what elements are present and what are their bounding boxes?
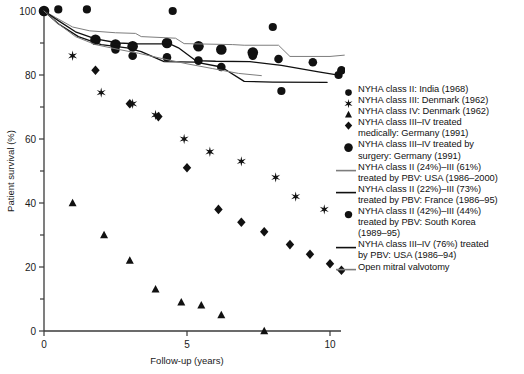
data-point-circle-small (83, 5, 91, 13)
legend-marker-line-dark-icon (334, 239, 356, 250)
legend-marker-line-gray-icon (334, 262, 356, 273)
legend-marker-diamond-icon (334, 117, 356, 128)
data-point-star (320, 204, 329, 214)
data-point-diamond (260, 227, 268, 237)
data-point-circle-large (193, 41, 204, 52)
legend-item: NYHA class III–IV treated bysurgery: Ger… (334, 139, 524, 161)
data-point-triangle (126, 256, 134, 264)
data-point-triangle (152, 285, 160, 293)
data-point-star (271, 172, 280, 182)
data-point-triangle (197, 301, 205, 309)
series-line (44, 11, 344, 56)
y-axis-title: Patient survival (%) (5, 130, 16, 212)
legend-item: NYHA class II (42%)–III (44%)treated by … (334, 206, 524, 239)
data-point-star (291, 191, 300, 201)
legend-marker-circle-large-icon (334, 139, 356, 150)
x-tick-label: 0 (41, 339, 47, 350)
data-point-circle-large (216, 44, 227, 55)
legend-label: treated by PBV: USA (1986–2000) (358, 173, 524, 184)
x-tick-label: 10 (324, 339, 336, 350)
legend-item: NYHA class II (22%)–III (73%)treated by … (334, 184, 524, 206)
legend-item: NYHA class II: India (1968) (334, 84, 524, 95)
x-axis-title: Follow-up (years) (150, 355, 223, 366)
series-line (44, 11, 327, 82)
data-point-triangle (69, 199, 77, 207)
y-tick-label: 60 (25, 134, 37, 145)
y-tick-label: 20 (25, 262, 37, 273)
data-point-circle-medium (274, 55, 283, 64)
data-point-diamond (326, 259, 334, 269)
legend-label: NYHA class III–IV treated by (358, 139, 524, 150)
data-point-star (237, 156, 246, 166)
data-point-triangle (217, 311, 225, 319)
data-point-diamond (214, 205, 222, 215)
legend-item: NYHA class III: Denmark (1962) (334, 95, 524, 106)
legend-item: NYHA class II (24%)–III (61%)treated by … (334, 162, 524, 184)
plot-area: 0204060801000510Follow-up (years)Patient… (0, 0, 345, 374)
legend-label: NYHA class II: India (1968) (358, 84, 524, 95)
y-tick-label: 40 (25, 198, 37, 209)
y-tick-label: 0 (30, 326, 36, 337)
data-point-diamond (91, 65, 99, 75)
data-point-circle-large (162, 38, 173, 49)
data-point-triangle (177, 298, 185, 306)
legend-item: Open mitral valvotomy (334, 262, 524, 273)
chart-svg: 0204060801000510Follow-up (years)Patient… (0, 0, 345, 374)
data-point-circle-small (54, 5, 62, 13)
data-point-star (205, 147, 214, 157)
legend-label: (1989–95) (358, 228, 524, 239)
legend-label: treated by PBV: France (1986–95) (358, 195, 524, 206)
legend-label: NYHA class III–IV treated (358, 117, 524, 128)
legend-marker-star-icon (334, 95, 356, 106)
legend-label: NYHA class II (42%)–III (44%) (358, 206, 524, 217)
data-point-diamond (286, 240, 294, 250)
chart-legend: NYHA class II: India (1968)NYHA class II… (334, 84, 524, 273)
data-point-circle-medium (309, 58, 318, 67)
data-point-triangle (100, 231, 108, 239)
data-point-star (180, 134, 189, 144)
data-point-diamond (306, 249, 314, 259)
legend-item: NYHA class III–IV treatedmedically: Germ… (334, 117, 524, 139)
x-tick-label: 5 (184, 339, 190, 350)
data-point-circle-small (277, 87, 285, 95)
legend-label: Open mitral valvotomy (358, 262, 524, 273)
y-tick-label: 80 (25, 70, 37, 81)
legend-label: NYHA class IV: Denmark (1962) (358, 106, 524, 117)
legend-marker-circle-small-icon (334, 84, 356, 95)
legend-marker-line-dark-icon (334, 184, 356, 195)
data-point-circle-small (169, 7, 177, 15)
data-point-circle-medium (248, 52, 257, 61)
legend-label: by PBV: USA (1986–94) (358, 250, 524, 261)
legend-item: NYHA class III–IV (76%) treatedby PBV: U… (334, 239, 524, 261)
y-tick-label: 100 (19, 6, 36, 17)
figure-root: 0204060801000510Follow-up (years)Patient… (0, 0, 524, 374)
legend-marker-line-gray-icon (334, 162, 356, 173)
legend-label: NYHA class II (22%)–III (73%) (358, 184, 524, 195)
data-point-star (68, 51, 77, 61)
legend-marker-circle-medium-icon (334, 206, 356, 217)
legend-label: NYHA class III–IV (76%) treated (358, 239, 524, 250)
data-point-diamond (237, 217, 245, 227)
legend-label: treated by PBV: South Korea (358, 217, 524, 228)
legend-label: NYHA class III: Denmark (1962) (358, 95, 524, 106)
legend-label: NYHA class II (24%)–III (61%) (358, 162, 524, 173)
legend-marker-triangle-icon (334, 106, 356, 117)
data-point-diamond (183, 163, 191, 173)
data-point-star (97, 87, 106, 97)
legend-item: NYHA class IV: Denmark (1962) (334, 106, 524, 117)
data-point-circle-small (269, 23, 277, 31)
legend-label: medically: Germany (1991) (358, 128, 524, 139)
legend-label: surgery: Germany (1991) (358, 151, 524, 162)
